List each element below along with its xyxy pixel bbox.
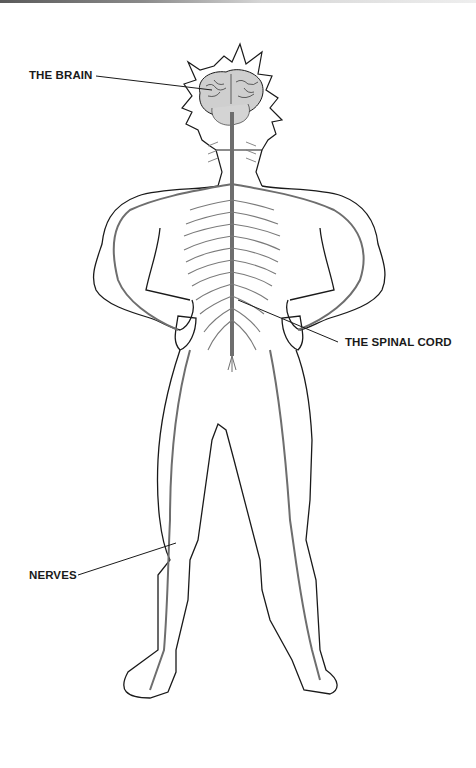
leader-lines xyxy=(78,76,338,575)
spinal-cord-end xyxy=(228,356,236,372)
neck-outline xyxy=(216,150,262,186)
label-spinal-cord: THE SPINAL CORD xyxy=(345,336,452,348)
body-outline xyxy=(94,186,385,698)
nervous-system-figure xyxy=(0,0,476,768)
label-brain: THE BRAIN xyxy=(29,69,93,81)
label-nerves: NERVES xyxy=(29,569,77,581)
